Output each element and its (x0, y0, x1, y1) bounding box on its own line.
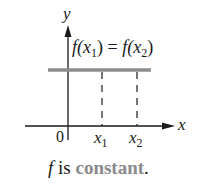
x2-var: x (129, 128, 137, 147)
x1-subscript: 1 (102, 136, 108, 150)
origin-label: 0 (56, 129, 64, 145)
y-axis-arrow-icon (65, 25, 72, 37)
eq-rhs-var: x (133, 37, 141, 57)
x1-label: x1 (94, 129, 108, 146)
caption-text: is (53, 157, 75, 178)
caption-period: . (144, 157, 149, 178)
graph-canvas (0, 0, 197, 183)
x2-subscript: 2 (137, 136, 143, 150)
equation-label: f(x1) = f(x2) (72, 38, 153, 56)
x-axis-arrow-icon (162, 123, 175, 130)
constant-function-diagram: y x 0 x1 x2 f(x1) = f(x2) f is constant. (0, 0, 197, 183)
y-axis-label: y (63, 5, 71, 22)
caption: f is constant. (48, 158, 149, 177)
eq-operator: = (103, 37, 122, 57)
eq-rhs-fn: f( (122, 37, 133, 57)
x2-label: x2 (129, 129, 143, 146)
eq-rhs-sub: 2 (141, 46, 147, 60)
x1-var: x (94, 128, 102, 147)
x-axis-label: x (178, 116, 186, 133)
eq-lhs-sub: 1 (91, 46, 97, 60)
caption-keyword: constant (75, 157, 144, 178)
eq-rhs-close: ) (147, 37, 153, 57)
eq-lhs-var: x (83, 37, 91, 57)
eq-lhs-fn: f( (72, 37, 83, 57)
